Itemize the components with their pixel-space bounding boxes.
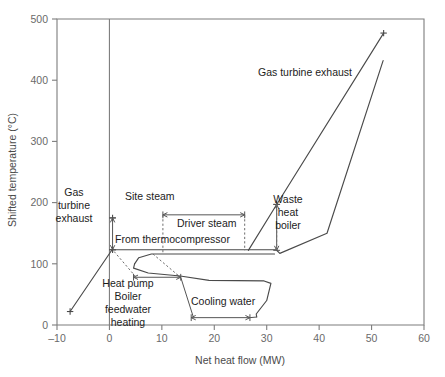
y-tick-label: 0 — [42, 319, 48, 331]
annotation-gas-turbine-exhaust-right: Gas turbine exhaust — [258, 66, 352, 78]
annotation-driver-steam: Driver steam — [177, 217, 237, 229]
annotation-from-thermocompressor: From thermocompressor — [115, 233, 230, 245]
shifted-temperature-vs-net-heat-flow-chart: 0100200300400500 –100102030405060 Gastur… — [0, 0, 445, 377]
y-tick-label: 500 — [30, 13, 48, 25]
x-tick-label: 50 — [366, 332, 378, 344]
annotation-cooling-water: Cooling water — [191, 295, 256, 307]
leader-line — [250, 317, 257, 318]
chart-container: 0100200300400500 –100102030405060 Gastur… — [0, 0, 445, 377]
x-tick-label: 60 — [418, 332, 430, 344]
y-tick-label: 400 — [30, 74, 48, 86]
y-tick-label: 300 — [30, 135, 48, 147]
x-tick-label: 40 — [313, 332, 325, 344]
x-tick-label: 10 — [156, 332, 168, 344]
x-tick-label: 20 — [208, 332, 220, 344]
x-tick-label: 0 — [107, 332, 113, 344]
x-tick-label: –10 — [48, 332, 66, 344]
y-tick-label: 200 — [30, 196, 48, 208]
y-tick-label: 100 — [30, 258, 48, 270]
x-tick-label: 30 — [261, 332, 273, 344]
y-axis-title: Shifted temperature (°C) — [6, 113, 18, 227]
x-axis-title: Net heat flow (MW) — [195, 354, 285, 366]
annotation-site-steam: Site steam — [125, 190, 175, 202]
